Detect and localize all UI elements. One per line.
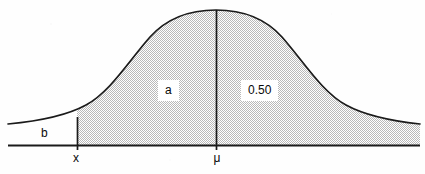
axis-tick-label-x: x	[69, 152, 83, 164]
normal-curve-figure: a 0.50 b x μ	[0, 0, 425, 174]
distribution-plot	[0, 0, 425, 174]
shaded-area	[8, 10, 420, 145]
area-label-half: 0.50	[241, 80, 278, 101]
tail-label-b: b	[41, 127, 48, 139]
area-label-a: a	[158, 80, 179, 101]
axis-tick-label-mu: μ	[209, 152, 225, 164]
